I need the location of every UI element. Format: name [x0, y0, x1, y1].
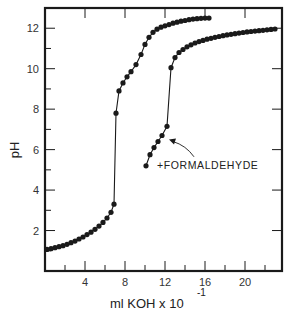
series-line [146, 29, 275, 166]
data-point-marker [108, 210, 113, 215]
data-point-marker [143, 163, 148, 168]
data-point-marker [116, 88, 121, 93]
data-point-marker [206, 16, 211, 21]
data-point-marker [272, 26, 277, 31]
arrowhead-icon [169, 139, 176, 145]
series-line [47, 18, 209, 249]
data-point-marker [104, 215, 109, 220]
annotation: +FORMALDEHYDE [157, 139, 258, 171]
x-axis-exponent: -1 [197, 287, 206, 298]
data-point-marker [124, 74, 129, 79]
series-formaldehyde [143, 26, 277, 168]
data-point-marker [138, 52, 143, 57]
data-point-marker [147, 152, 152, 157]
data-point-marker [146, 35, 151, 40]
plot-frame [45, 8, 282, 271]
y-tick-label: 12 [27, 22, 39, 34]
data-point-marker [172, 55, 177, 60]
x-tick-label: 20 [239, 276, 251, 288]
y-tick-label: 4 [33, 184, 39, 196]
x-tick-label: 4 [82, 276, 88, 288]
data-point-marker [168, 65, 173, 70]
annotation-arrow [173, 142, 194, 157]
series-control [44, 16, 211, 252]
y-tick-label: 6 [33, 144, 39, 156]
data-point-marker [155, 139, 160, 144]
data-point-marker [120, 80, 125, 85]
x-axis-title: ml KOH x 10 [110, 296, 184, 311]
data-point-marker [113, 111, 118, 116]
data-point-marker [159, 133, 164, 138]
data-point-marker [142, 42, 147, 47]
y-tick-label: 10 [27, 63, 39, 75]
y-tick-label: 8 [33, 103, 39, 115]
plot-border [45, 8, 282, 271]
data-point-marker [128, 69, 133, 74]
x-tick-label: 12 [159, 276, 171, 288]
data-point-marker [164, 124, 169, 129]
y-axis-title: pH [7, 142, 22, 159]
data-point-marker [151, 145, 156, 150]
data-point-marker [133, 62, 138, 67]
x-tick-label: 8 [122, 276, 128, 288]
data-point-marker [111, 202, 116, 207]
y-tick-label: 2 [33, 225, 39, 237]
formaldehyde-annotation: +FORMALDEHYDE [157, 159, 258, 171]
data-point-marker [96, 224, 101, 229]
data-series [44, 16, 277, 252]
titration-chart: 4812162024681012 +FORMALDEHYDE pH ml KOH… [0, 0, 290, 322]
data-point-marker [100, 220, 105, 225]
